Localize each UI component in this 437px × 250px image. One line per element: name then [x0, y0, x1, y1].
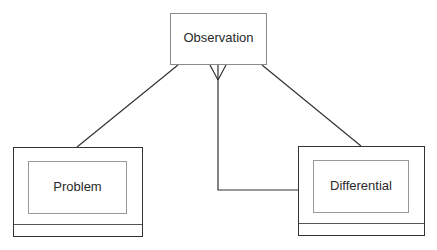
entity-label: Differential: [314, 178, 408, 193]
entity-label: Observation: [171, 30, 266, 45]
crows-foot-right: [218, 65, 226, 80]
entity-observation[interactable]: Observation: [170, 13, 267, 65]
entity-inner-box: Problem: [28, 161, 127, 214]
entity-problem[interactable]: Problem: [13, 147, 143, 237]
crows-foot-left: [210, 65, 218, 80]
entity-differential[interactable]: Differential: [298, 146, 425, 236]
entity-divider: [14, 224, 142, 225]
entity-inner-box: Differential: [313, 160, 409, 213]
observation-problem-line: [77, 65, 178, 147]
observation-differential-line: [262, 65, 361, 146]
entity-divider: [299, 223, 424, 224]
entity-label: Problem: [29, 179, 126, 194]
